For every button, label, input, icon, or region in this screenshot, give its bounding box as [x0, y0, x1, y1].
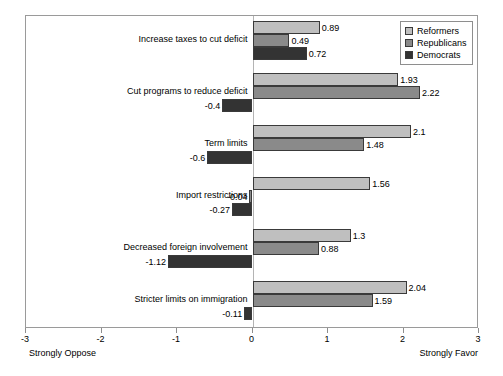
legend-item-republicans: Republicans	[405, 37, 467, 49]
bar-republicans: 1.48	[253, 138, 365, 151]
bar-republicans: 2.22	[253, 86, 421, 99]
bar-republicans: -0.04	[249, 190, 252, 203]
legend-item-reformers: Reformers	[405, 25, 467, 37]
x-axis-tick-label: 3	[475, 334, 480, 344]
category-label: Import restrictions	[176, 190, 248, 201]
legend-label-democrats: Democrats	[417, 49, 461, 61]
legend-label-reformers: Reformers	[417, 25, 459, 37]
bar-row: 1.48	[26, 138, 477, 151]
axis-anchor-left: Strongly Oppose	[29, 348, 96, 358]
bar-value-label: -0.27	[210, 204, 231, 217]
x-axis-tick	[252, 328, 253, 333]
x-axis-tick	[327, 328, 328, 333]
category-label: Cut programs to reduce deficit	[127, 86, 248, 97]
chart-legend: Reformers Republicans Democrats	[400, 21, 473, 65]
bar-reformers: 2.1	[253, 125, 412, 138]
bar-row: 1.93	[26, 73, 477, 86]
x-axis-tick	[101, 328, 102, 333]
bar-republicans: 0.49	[253, 34, 290, 47]
legend-item-democrats: Democrats	[405, 49, 467, 61]
bar-value-label: -0.6	[190, 152, 206, 165]
bar-reformers: 0.89	[253, 21, 320, 34]
bar-reformers: 1.93	[253, 73, 399, 86]
bar-row: -0.4	[26, 99, 477, 112]
category-label: Term limits	[205, 138, 248, 149]
bar-democrats: -0.11	[244, 307, 252, 320]
bar-row: 2.04	[26, 281, 477, 294]
bar-row: -1.12	[26, 255, 477, 268]
bar-row: -0.27	[26, 203, 477, 216]
x-axis-tick	[403, 328, 404, 333]
bar-democrats: 0.72	[253, 47, 307, 60]
axis-anchor-right: Strongly Favor	[419, 348, 478, 358]
bar-row: 1.56	[26, 177, 477, 190]
bar-row: 2.22	[26, 86, 477, 99]
legend-label-republicans: Republicans	[417, 37, 467, 49]
bar-group: 1.932.22-0.4	[26, 73, 477, 112]
bar-value-label: -0.11	[222, 308, 242, 321]
bar-group: 1.30.88-1.12	[26, 229, 477, 268]
x-axis-tick	[176, 328, 177, 333]
bar-reformers: 2.04	[253, 281, 407, 294]
bar-democrats: -0.6	[207, 151, 252, 164]
x-axis-tick-label: 1	[324, 334, 329, 344]
bar-democrats: -0.4	[222, 99, 252, 112]
x-axis-tick-label: 0	[249, 334, 254, 344]
legend-swatch-icon-reformers	[405, 27, 413, 35]
x-axis-tick-label: -3	[21, 334, 29, 344]
bar-group: 2.041.59-0.11	[26, 281, 477, 320]
bar-reformers: 1.3	[253, 229, 351, 242]
category-label: Increase taxes to cut deficit	[138, 34, 247, 45]
bar-value-label: 0.72	[309, 48, 327, 61]
bar-row: 2.1	[26, 125, 477, 138]
x-axis-tick-label: 2	[400, 334, 405, 344]
bar-group: 2.11.48-0.6	[26, 125, 477, 164]
x-axis-tick	[478, 328, 479, 333]
x-axis-tick	[25, 328, 26, 333]
bar-republicans: 1.59	[253, 294, 373, 307]
bar-democrats: -0.27	[232, 203, 252, 216]
x-axis-tick-label: -1	[172, 334, 180, 344]
legend-swatch-icon-democrats	[405, 51, 413, 59]
bar-row: -0.11	[26, 307, 477, 320]
bar-row: -0.04	[26, 190, 477, 203]
bar-reformers: 1.56	[253, 177, 371, 190]
bar-group: 1.56-0.04-0.27	[26, 177, 477, 216]
zero-axis-line	[253, 16, 254, 327]
bar-row: 1.3	[26, 229, 477, 242]
bar-value-label: -1.12	[145, 256, 166, 269]
bar-row: -0.6	[26, 151, 477, 164]
bar-row: 0.88	[26, 242, 477, 255]
bar-democrats: -1.12	[168, 255, 253, 268]
legend-swatch-icon-republicans	[405, 39, 413, 47]
bar-republicans: 0.88	[253, 242, 319, 255]
category-label: Stricter limits on immigration	[134, 294, 247, 305]
horizontal-bar-chart: 0.890.490.721.932.22-0.42.11.48-0.61.56-…	[0, 0, 503, 376]
category-label: Decreased foreign involvement	[123, 242, 247, 253]
bar-row: 1.59	[26, 294, 477, 307]
bar-value-label: -0.4	[205, 100, 221, 113]
x-axis-tick-label: -2	[96, 334, 104, 344]
